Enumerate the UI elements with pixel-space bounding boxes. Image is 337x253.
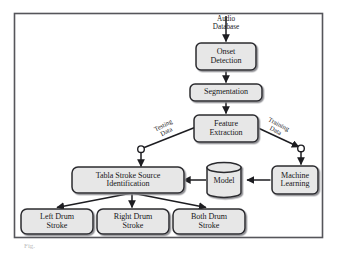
node-onset-detection[interactable] (196, 43, 256, 70)
figure-frame (15, 14, 323, 238)
node-model[interactable] (207, 163, 241, 198)
node-tabla-stroke-source-identification[interactable] (72, 167, 184, 193)
testing-junction-node (138, 146, 145, 153)
node-segmentation[interactable] (190, 84, 262, 101)
node-left-drum-stroke[interactable] (21, 209, 93, 234)
diagram-svg (0, 0, 337, 253)
node-feature-extraction[interactable] (194, 115, 258, 142)
figure-canvas: Audio Database Onset Detection Segmentat… (0, 0, 337, 253)
node-both-drum-stroke[interactable] (173, 209, 245, 234)
node-right-drum-stroke[interactable] (97, 209, 169, 234)
node-machine-learning[interactable] (272, 166, 318, 194)
training-junction-node (298, 145, 305, 152)
